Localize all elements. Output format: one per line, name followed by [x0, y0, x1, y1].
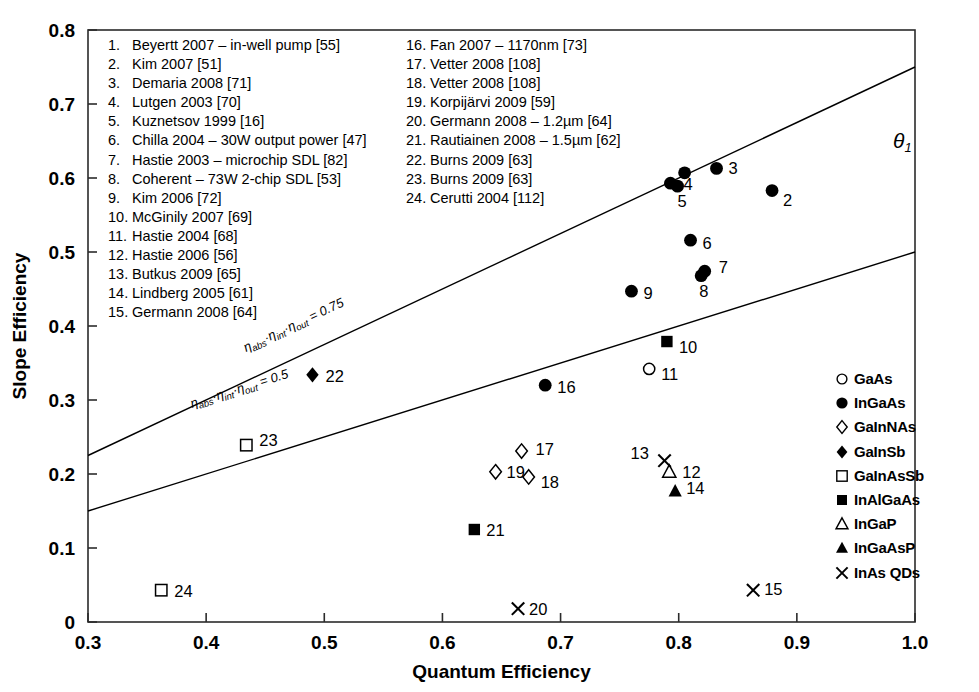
- reference-item: 24.Cerutti 2004 [112]: [406, 189, 621, 208]
- legend-marker-svg: [832, 490, 852, 510]
- x-tick-label-1: 0.4: [193, 632, 220, 653]
- reference-text: Lindberg 2005 [61]: [132, 284, 253, 303]
- legend-label: InGaAsP: [854, 536, 915, 560]
- legend-label: InGaAs: [854, 391, 905, 415]
- data-point-22: 22: [306, 367, 344, 385]
- data-point-label-14: 14: [686, 479, 704, 497]
- marker-filled-circle: [684, 234, 697, 247]
- eta-annotation-text: θ1: [893, 129, 912, 155]
- reference-item: 17.Vetter 2008 [108]: [406, 55, 621, 74]
- data-point-label-22: 22: [325, 367, 343, 385]
- legend-item-ingap: InGaP: [832, 512, 924, 536]
- marker-open-diamond: [837, 421, 847, 434]
- data-point-label-13: 13: [631, 444, 649, 462]
- y-tick-label-8: 0.8: [49, 20, 75, 41]
- y-tick-label-2: 0.2: [49, 464, 75, 485]
- reference-list-column-2: 16.Fan 2007 – 1170nm [73]17.Vetter 2008 …: [406, 36, 621, 208]
- data-point-21: 21: [469, 521, 505, 539]
- reference-number: 6.: [108, 131, 132, 150]
- marker-filled-circle: [710, 162, 723, 175]
- data-point-14: 14: [669, 479, 705, 497]
- data-point-17: 17: [516, 440, 554, 458]
- marker-open-circle: [837, 374, 847, 384]
- reference-item: 23.Burns 2009 [63]: [406, 170, 621, 189]
- reference-text: Hastie 2004 [68]: [132, 227, 238, 246]
- reference-item: 14.Lindberg 2005 [61]: [108, 284, 367, 303]
- data-point-9: 9: [625, 284, 653, 302]
- reference-item: 8.Coherent – 73W 2-chip SDL [53]: [108, 170, 367, 189]
- legend-marker-svg: [832, 538, 852, 558]
- x-tick-label-7: 1.0: [902, 632, 928, 653]
- reference-number: 20.: [406, 112, 430, 131]
- data-point-19: 19: [490, 463, 525, 481]
- reference-text: Coherent – 73W 2-chip SDL [53]: [132, 170, 341, 189]
- reference-number: 23.: [406, 170, 430, 189]
- reference-item: 21.Rautiainen 2008 – 1.5µm [62]: [406, 131, 621, 150]
- legend-marker-filled-triangle-icon: [832, 538, 854, 558]
- data-point-label-19: 19: [507, 463, 525, 481]
- reference-text: Burns 2009 [63]: [430, 170, 532, 189]
- legend-item-inalgaas: InAlGaAs: [832, 488, 924, 512]
- y-tick-label-0: 0: [64, 612, 75, 633]
- marker-filled-diamond: [306, 367, 318, 382]
- legend-marker-svg: [832, 514, 852, 534]
- reference-number: 9.: [108, 189, 132, 208]
- y-tick-label-1: 0.1: [49, 538, 76, 559]
- y-tick-label-3: 0.3: [49, 390, 75, 411]
- data-point-label-17: 17: [536, 440, 554, 458]
- legend-marker-svg: [832, 369, 852, 389]
- x-tick-label-2: 0.5: [311, 632, 338, 653]
- x-tick-label-0: 0.3: [75, 632, 101, 653]
- legend-marker-filled-circle-icon: [832, 393, 854, 413]
- reference-item: 9.Kim 2006 [72]: [108, 189, 367, 208]
- reference-text: Germann 2008 – 1.2µm [64]: [430, 112, 612, 131]
- reference-text: Lutgen 2003 [70]: [132, 93, 241, 112]
- trend-label-05: ηabs·ηint·ηout = 0.5: [188, 366, 291, 413]
- data-point-13: 13: [631, 444, 671, 467]
- marker-filled-circle: [539, 379, 552, 392]
- legend-marker-cross-icon: [832, 563, 854, 583]
- reference-item: 7.Hastie 2003 – microchip SDL [82]: [108, 151, 367, 170]
- data-point-10: 10: [661, 336, 697, 356]
- data-point-24: 24: [156, 582, 193, 600]
- data-point-label-20: 20: [529, 600, 547, 618]
- reference-text: Burns 2009 [63]: [430, 151, 532, 170]
- legend-marker-svg: [832, 563, 852, 583]
- reference-list-column-1: 1.Beyertt 2007 – in-well pump [55]2.Kim …: [108, 36, 367, 322]
- reference-text: Kim 2006 [72]: [132, 189, 221, 208]
- reference-item: 15.Germann 2008 [64]: [108, 303, 367, 322]
- reference-item: 13.Butkus 2009 [65]: [108, 265, 367, 284]
- data-point-label-9: 9: [643, 284, 652, 302]
- x-tick-label-4: 0.7: [547, 632, 573, 653]
- reference-number: 5.: [108, 112, 132, 131]
- y-tick-label-7: 0.7: [49, 94, 75, 115]
- reference-item: 3.Demaria 2008 [71]: [108, 74, 367, 93]
- reference-number: 13.: [108, 265, 132, 284]
- marker-filled-square: [837, 495, 847, 505]
- data-point-label-7: 7: [719, 258, 728, 276]
- marker-filled-circle: [625, 285, 638, 298]
- reference-item: 19.Korpijärvi 2009 [59]: [406, 93, 621, 112]
- data-point-20: 20: [512, 600, 548, 618]
- reference-number: 8.: [108, 170, 132, 189]
- reference-number: 2.: [108, 55, 132, 74]
- legend-label: InAs QDs: [854, 561, 920, 585]
- reference-item: 16.Fan 2007 – 1170nm [73]: [406, 36, 621, 55]
- reference-text: Hastie 2006 [56]: [132, 246, 238, 265]
- data-point-label-24: 24: [174, 582, 192, 600]
- data-point-4: [678, 166, 691, 179]
- data-point-label-15: 15: [764, 580, 782, 598]
- reference-text: Hastie 2003 – microchip SDL [82]: [132, 151, 347, 170]
- legend-marker-open-square-icon: [832, 466, 854, 486]
- data-point-6: 6: [684, 234, 712, 252]
- reference-number: 19.: [406, 93, 430, 112]
- reference-number: 17.: [406, 55, 430, 74]
- legend-label: GaInNAs: [854, 415, 916, 439]
- marker-filled-circle: [695, 269, 708, 282]
- reference-number: 10.: [108, 208, 132, 227]
- marker-filled-circle: [671, 180, 684, 193]
- reference-number: 24.: [406, 189, 430, 208]
- reference-number: 21.: [406, 131, 430, 150]
- marker-open-diamond: [490, 465, 502, 479]
- legend-marker-open-diamond-icon: [832, 417, 854, 437]
